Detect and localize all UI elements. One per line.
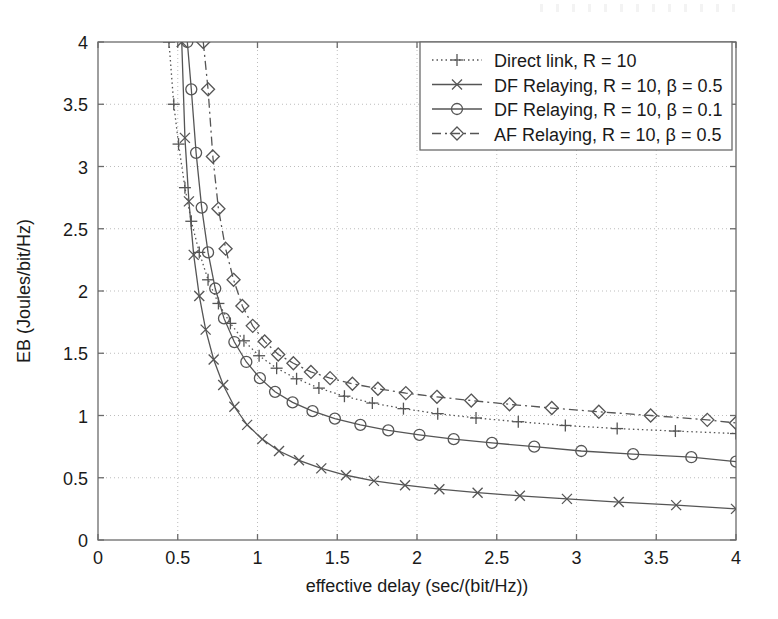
- data-point-marker: [218, 380, 228, 390]
- x-tick-label: 2.5: [484, 548, 509, 568]
- data-point-marker: [257, 434, 267, 444]
- y-axis-label: EB (Joules/bit/Hz): [14, 219, 34, 363]
- x-axis-label: effective delay (sec/(bit/Hz)): [306, 576, 529, 596]
- data-point-marker: [366, 397, 378, 409]
- data-point-marker: [227, 273, 240, 286]
- data-point-marker: [219, 242, 232, 255]
- legend-label: AF Relaying, R = 10, β = 0.5: [494, 125, 721, 145]
- data-point-marker: [163, 36, 175, 48]
- data-point-marker: [611, 423, 623, 435]
- y-tick-label: 2.5: [63, 220, 88, 240]
- legend-label: DF Relaying, R = 10, β = 0.1: [494, 100, 722, 120]
- data-point-marker: [229, 402, 239, 412]
- legend-label: DF Relaying, R = 10, β = 0.5: [494, 76, 722, 96]
- data-point-marker: [168, 98, 180, 110]
- y-tick-label: 2: [78, 282, 88, 302]
- data-point-marker: [341, 470, 351, 480]
- data-point-marker: [212, 202, 225, 215]
- y-tick-label: 3: [78, 158, 88, 178]
- y-tick-label: 0.5: [63, 469, 88, 489]
- data-point-marker: [313, 382, 325, 394]
- x-tick-label: 1.5: [325, 548, 350, 568]
- data-point-marker: [242, 420, 252, 430]
- y-tick-label: 0: [78, 531, 88, 551]
- data-point-marker: [274, 446, 284, 456]
- data-point-marker: [397, 403, 409, 415]
- data-point-marker: [338, 390, 350, 402]
- x-tick-label: 3: [571, 548, 581, 568]
- legend: Direct link, R = 10DF Relaying, R = 10, …: [420, 42, 732, 150]
- data-point-marker: [271, 362, 283, 374]
- data-point-marker: [346, 377, 359, 390]
- x-tick-label: 4: [731, 548, 741, 568]
- x-tick-label: 0.5: [165, 548, 190, 568]
- figure-container: 00.511.522.533.5400.511.522.533.54effect…: [0, 0, 778, 619]
- data-point-marker: [559, 419, 571, 431]
- data-point-marker: [371, 382, 384, 395]
- x-tick-label: 0: [93, 548, 103, 568]
- data-point-marker: [512, 416, 524, 428]
- data-point-marker: [669, 425, 681, 437]
- data-point-marker: [201, 325, 211, 335]
- x-tick-label: 1: [252, 548, 262, 568]
- data-point-marker: [316, 463, 326, 473]
- x-tick-label: 3.5: [644, 548, 669, 568]
- data-point-marker: [470, 412, 482, 424]
- y-tick-label: 1: [78, 407, 88, 427]
- data-point-marker: [432, 408, 444, 420]
- y-tick-label: 3.5: [63, 95, 88, 115]
- data-point-marker: [179, 182, 191, 194]
- data-point-marker: [294, 455, 304, 465]
- y-tick-label: 4: [78, 33, 88, 53]
- data-point-marker: [253, 350, 265, 362]
- data-point-marker: [291, 373, 303, 385]
- legend-label: Direct link, R = 10: [494, 51, 637, 71]
- x-tick-label: 2: [412, 548, 422, 568]
- y-tick-label: 1.5: [63, 344, 88, 364]
- chart-canvas: 00.511.522.533.5400.511.522.533.54effect…: [0, 0, 778, 619]
- data-point-marker: [209, 354, 219, 364]
